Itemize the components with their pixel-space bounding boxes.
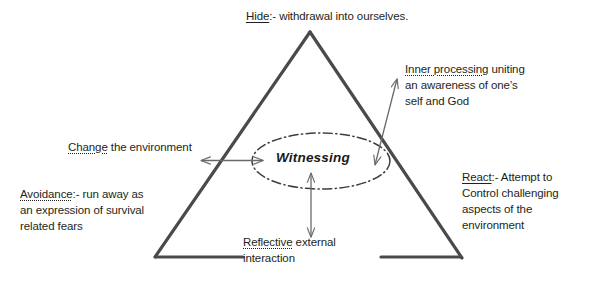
label-react-line1: React:- Attempt to: [462, 169, 559, 185]
label-avoidance-line2: an expression of survival: [20, 202, 144, 218]
label-reflective-emphasis: Reflective: [243, 236, 293, 248]
label-avoidance-line1: Avoidance:- run away as: [20, 186, 144, 202]
diagram-canvas: Hide:- withdrawal into ourselves. Inner …: [0, 0, 598, 281]
label-hide-rest: :- withdrawal into ourselves.: [269, 10, 408, 22]
label-reflective: Reflective external interaction: [243, 234, 336, 266]
label-change-rest: the environment: [108, 141, 192, 153]
label-witnessing: Witnessing: [276, 150, 350, 165]
label-inner-processing-line1: Inner processing uniting: [405, 61, 525, 77]
label-reflective-line1: Reflective external: [243, 234, 336, 250]
label-avoidance-line3: related fears: [20, 218, 144, 234]
label-change-emphasis: Change: [68, 141, 108, 153]
label-react-line4: environment: [462, 217, 559, 233]
label-change: Change the environment: [68, 139, 192, 155]
label-inner-processing-line3: self and God: [405, 93, 525, 109]
label-inner-processing-line1-rest: uniting: [488, 63, 524, 75]
inner-processing-arrow: [375, 79, 397, 165]
label-react: React:- Attempt to Control challenging a…: [462, 169, 559, 233]
label-inner-processing-emphasis: Inner processing: [405, 63, 488, 75]
label-avoidance: Avoidance:- run away as an expression of…: [20, 186, 144, 234]
label-react-line1-rest: :- Attempt to: [492, 171, 553, 183]
label-reflective-line2: interaction: [243, 250, 336, 266]
label-inner-processing-line2: an awareness of one’s: [405, 77, 525, 93]
label-inner-processing: Inner processing uniting an awareness of…: [405, 61, 525, 109]
label-avoidance-emphasis: Avoidance: [20, 188, 73, 200]
label-react-line3: aspects of the: [462, 201, 559, 217]
label-hide-emphasis: Hide: [246, 10, 269, 22]
label-hide: Hide:- withdrawal into ourselves.: [246, 8, 408, 24]
label-react-line2: Control challenging: [462, 185, 559, 201]
label-react-emphasis: React: [462, 171, 492, 183]
label-reflective-line1-rest: external: [293, 236, 336, 248]
label-avoidance-line1-rest: :- run away as: [73, 188, 144, 200]
